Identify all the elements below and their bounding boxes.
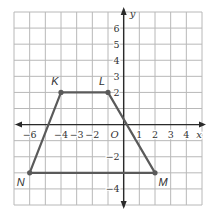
x-axis-label: x: [196, 129, 202, 140]
x-tick-label: 4: [183, 129, 189, 140]
x-tick-label: −2: [85, 129, 99, 140]
x-tick-label: 1: [136, 129, 142, 140]
labels: −6−4−3−2123465432−2−4xyOKLMN: [17, 8, 202, 194]
y-tick-label: −2: [106, 151, 120, 162]
vertex-l-point: [105, 90, 110, 95]
y-tick-label: 6: [114, 23, 120, 34]
vertex-n-label: N: [17, 176, 25, 188]
grid: [14, 12, 202, 205]
coordinate-plane: −6−4−3−2123465432−2−4xyOKLMN: [0, 0, 212, 217]
x-axis-left-arrow-icon: [15, 122, 22, 128]
x-tick-label: −4: [54, 129, 68, 140]
x-tick-label: −3: [70, 129, 84, 140]
vertex-n-point: [27, 170, 32, 175]
vertex-k-point: [58, 90, 63, 95]
y-tick-label: 3: [114, 71, 120, 82]
x-tick-label: 3: [168, 129, 174, 140]
vertex-k-label: K: [51, 75, 59, 87]
y-tick-label: 2: [114, 87, 120, 98]
y-axis-up-arrow-icon: [121, 7, 127, 15]
x-tick-label: 2: [152, 129, 158, 140]
vertex-m-point: [152, 170, 157, 175]
vertex-m-label: M: [158, 176, 168, 188]
origin-label: O: [111, 129, 119, 140]
y-tick-label: 5: [114, 39, 120, 50]
y-tick-label: −4: [106, 183, 120, 194]
x-tick-label: −6: [23, 129, 37, 140]
y-tick-label: 4: [114, 55, 120, 66]
vertex-l-label: L: [99, 75, 105, 87]
y-axis-label: y: [129, 8, 136, 19]
